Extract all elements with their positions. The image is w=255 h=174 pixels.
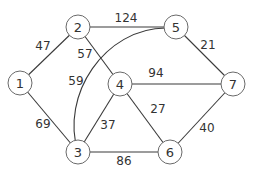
edge-4-6 xyxy=(120,84,170,152)
edge-weight-6-7: 40 xyxy=(199,121,214,135)
node-label: 1 xyxy=(16,76,24,91)
node-label: 6 xyxy=(166,145,174,160)
edge-weight-3-5: 59 xyxy=(68,74,83,88)
edge-weight-4-7: 94 xyxy=(148,66,163,80)
node-label: 3 xyxy=(74,145,82,160)
edge-weight-3-6: 86 xyxy=(116,154,131,168)
edge-6-7 xyxy=(170,84,233,152)
edge-weight-2-5: 124 xyxy=(115,11,138,25)
graph-node-3: 3 xyxy=(66,140,90,164)
weighted-graph-diagram: 47 69 124 57 59 37 86 94 27 21 40 1 2 3 … xyxy=(0,0,255,174)
graph-node-4: 4 xyxy=(108,72,132,96)
node-label: 4 xyxy=(116,77,124,92)
graph-node-5: 5 xyxy=(164,15,188,39)
edge-weight-3-4: 37 xyxy=(100,118,115,132)
edge-weight-5-7: 21 xyxy=(200,38,215,52)
graph-node-2: 2 xyxy=(66,15,90,39)
edge-weight-1-3: 69 xyxy=(35,117,50,131)
edge-weight-4-6: 27 xyxy=(150,102,165,116)
node-label: 5 xyxy=(172,20,180,35)
edge-weight-1-2: 47 xyxy=(35,39,50,53)
graph-node-7: 7 xyxy=(221,72,245,96)
node-label: 2 xyxy=(74,20,82,35)
graph-node-6: 6 xyxy=(158,140,182,164)
node-label: 7 xyxy=(229,77,237,92)
edge-weight-2-4: 57 xyxy=(77,47,92,61)
graph-node-1: 1 xyxy=(8,71,32,95)
